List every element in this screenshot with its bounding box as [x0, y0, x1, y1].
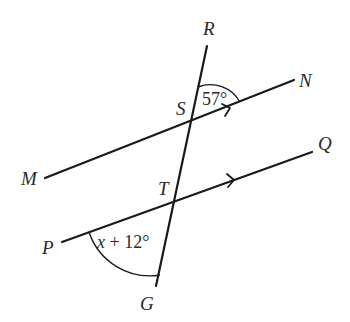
- line-MN: [45, 80, 294, 178]
- point-label-S: S: [176, 98, 186, 119]
- point-label-R: R: [202, 18, 215, 39]
- line-PQ: [62, 152, 312, 242]
- point-label-Q: Q: [318, 133, 332, 154]
- angle-variable-x: x: [96, 232, 105, 252]
- point-label-N: N: [298, 70, 313, 91]
- angle-expression-rest: + 12°: [105, 232, 149, 252]
- point-label-P: P: [41, 237, 54, 258]
- angle-label-x-plus-12: x + 12°: [96, 232, 149, 252]
- geometry-diagram: R N S M T Q P G 57° x + 12°: [0, 0, 350, 322]
- angle-label-57: 57°: [202, 89, 227, 109]
- point-label-G: G: [140, 293, 154, 314]
- point-label-T: T: [158, 178, 170, 199]
- transversal-line-RG: [156, 46, 207, 286]
- point-label-M: M: [20, 168, 38, 189]
